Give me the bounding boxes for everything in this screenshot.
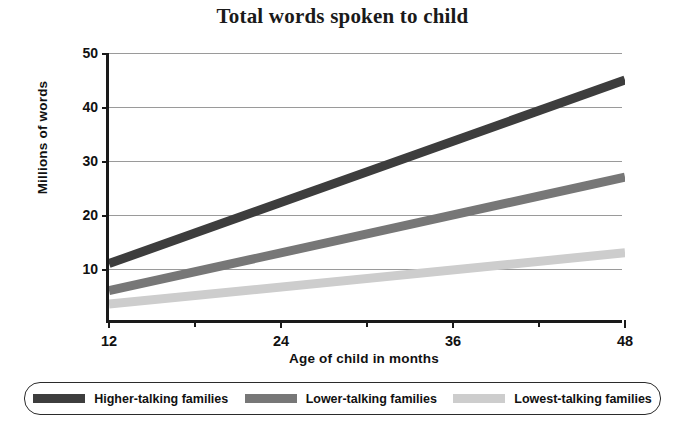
y-tick-label-30: 30 — [82, 153, 98, 169]
legend-item-2[interactable]: Lower-talking families — [245, 392, 437, 406]
y-tick-mark-50 — [102, 53, 109, 55]
series-line-3 — [109, 253, 625, 304]
legend-label-3: Lowest-talking families — [514, 392, 652, 406]
chart-figure: Total words spoken to child Millions of … — [0, 0, 685, 427]
y-axis-title: Millions of words — [35, 58, 50, 218]
plot-inner: 1020304050 12243648 — [109, 53, 622, 320]
x-tick-label-24: 24 — [273, 333, 289, 349]
y-tick-label-40: 40 — [82, 99, 98, 115]
plot-area: 1020304050 12243648 — [106, 53, 622, 323]
y-tick-mark-40 — [102, 107, 109, 109]
x-tick-label-48: 48 — [617, 333, 633, 349]
x-tick-label-36: 36 — [445, 333, 461, 349]
legend-swatch-icon-2 — [245, 394, 297, 403]
y-tick-label-20: 20 — [82, 207, 98, 223]
legend-swatch-icon-1 — [33, 394, 85, 403]
y-tick-mark-30 — [102, 161, 109, 163]
legend-item-1[interactable]: Higher-talking families — [33, 392, 228, 406]
chart-legend: Higher-talking familiesLower-talking fam… — [24, 382, 661, 415]
legend-label-1: Higher-talking families — [94, 392, 228, 406]
legend-swatch-icon-3 — [453, 394, 505, 403]
y-tick-mark-10 — [102, 269, 109, 271]
x-tick-label-12: 12 — [101, 333, 117, 349]
series-lines-group — [109, 53, 625, 323]
y-tick-mark-20 — [102, 215, 109, 217]
x-axis-title: Age of child in months — [106, 351, 622, 366]
chart-title: Total words spoken to child — [0, 4, 685, 29]
legend-item-3[interactable]: Lowest-talking families — [453, 392, 652, 406]
legend-label-2: Lower-talking families — [306, 392, 437, 406]
y-tick-label-10: 10 — [82, 261, 98, 277]
y-tick-label-50: 50 — [82, 45, 98, 61]
